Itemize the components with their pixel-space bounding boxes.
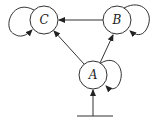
edge-a-to-b xyxy=(100,35,113,63)
state-diagram: C B A xyxy=(0,0,161,125)
edge-a-to-c xyxy=(54,31,84,64)
node-a: A xyxy=(79,60,121,89)
node-b: B xyxy=(103,5,149,35)
node-c: C xyxy=(9,6,58,36)
node-c-label: C xyxy=(39,13,48,27)
node-a-label: A xyxy=(88,68,98,82)
node-b-label: B xyxy=(112,13,122,27)
